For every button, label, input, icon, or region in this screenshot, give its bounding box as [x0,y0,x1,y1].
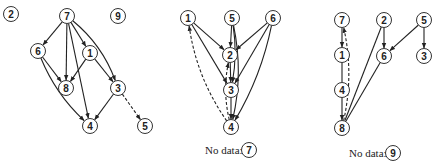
edge-6-to-8 [346,62,380,121]
edge-7-to-6 [43,22,62,45]
node-label: 9 [390,148,396,159]
no-data-label: No data: [349,147,387,159]
graph-node-5: 5 [138,119,153,134]
edge-2-to-3 [230,62,231,82]
graph-node-2: 2 [377,13,392,28]
node-label: 5 [421,15,427,26]
node-label: 7 [64,11,70,22]
nodes-layer: 27961834515623472516348 [4,7,432,136]
edge-5-to-6 [390,25,418,51]
graph-2-edges [189,23,271,121]
graph-node-8: 8 [59,81,74,96]
node-label: 3 [228,85,234,96]
node-label: 8 [63,83,69,94]
edge-1-to-8 [71,59,86,81]
graph-node-9: 9 [111,9,126,24]
graph-node-9: 9 [386,146,401,161]
edge-1-to-2 [194,23,224,50]
graph-node-2: 2 [223,48,238,63]
node-label: 2 [381,15,387,26]
graph-3-no-data-caption: No data:9 [349,146,401,161]
edge-3-to-4 [95,94,114,120]
node-label: 1 [87,48,93,59]
graph-node-2: 2 [4,7,19,22]
graph-node-6: 6 [266,11,281,26]
graph-node-6: 6 [377,49,392,64]
graph-node-5: 5 [225,11,240,26]
captions-layer: No data:7No data:9 [205,143,401,161]
graph-node-3: 3 [111,81,126,96]
edges-layer [41,21,424,121]
node-label: 4 [87,121,93,132]
edge-1-to-3 [95,59,113,82]
graph-node-4: 4 [335,83,350,98]
node-label: 6 [381,51,387,62]
graph-node-7: 7 [60,9,75,24]
node-label: 2 [8,9,14,20]
edge-1-to-3 [192,24,227,83]
node-label: 4 [228,122,234,133]
edge-3-to-5-dashed [122,94,140,119]
diagram-canvas: 27961834515623472516348 No data:7No data… [0,0,435,164]
graph-node-7: 7 [335,13,350,28]
graph-node-8: 8 [335,121,350,136]
node-label: 1 [339,50,345,61]
node-label: 8 [339,123,345,134]
node-label: 5 [142,121,148,132]
graph-node-1: 1 [335,48,350,63]
graph-node-3: 3 [417,49,432,64]
graph-node-1: 1 [181,11,196,26]
edge-6-to-8 [43,57,62,82]
graph-node-1: 1 [83,46,98,61]
node-label: 3 [115,83,121,94]
node-label: 2 [227,50,233,61]
node-label: 7 [339,15,345,26]
graph-node-4: 4 [83,119,98,134]
graph-node-5: 5 [417,13,432,28]
graph-1-edges [41,21,141,121]
edge-7-to-8 [66,23,67,80]
node-label: 6 [270,13,276,24]
node-label: 3 [421,51,427,62]
node-label: 7 [246,145,252,156]
graph-node-6: 6 [31,44,46,59]
graph-3-edges [342,25,424,121]
node-label: 5 [229,13,235,24]
graph-node-7: 7 [242,143,257,158]
node-label: 1 [185,13,191,24]
node-label: 9 [115,11,121,22]
edge-2-to-8 [345,27,381,121]
edge-8-to-7-dashed [344,28,349,121]
graph-node-4: 4 [224,120,239,135]
graph-node-3: 3 [224,83,239,98]
no-data-label: No data: [205,144,243,156]
node-label: 6 [35,46,41,57]
node-label: 4 [339,85,345,96]
graph-2-no-data-caption: No data:7 [205,143,257,158]
edge-5-to-2 [230,25,231,47]
